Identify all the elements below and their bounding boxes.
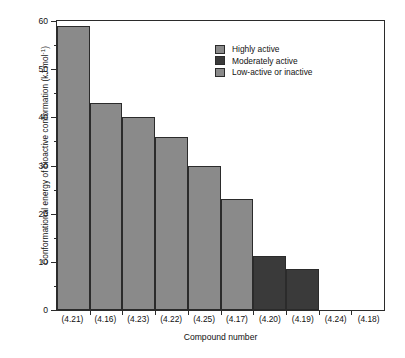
legend: Highly activeModerately activeLow-active…	[215, 44, 313, 77]
x-axis-tick-label: (4.21)	[56, 314, 89, 324]
y-axis-tick-label: 30	[38, 161, 48, 171]
bar[interactable]	[188, 166, 221, 311]
x-axis-tick-label: (4.23)	[122, 314, 155, 324]
x-axis-tick-label: (4.25)	[188, 314, 221, 324]
legend-swatch	[215, 45, 225, 54]
bar[interactable]	[122, 117, 155, 310]
bar-slot	[122, 21, 155, 310]
y-axis-title-superscript: -1	[40, 49, 46, 55]
bar-slot	[351, 21, 384, 310]
x-axis-tick-label: (4.20)	[253, 314, 286, 324]
bar-slot	[90, 21, 123, 310]
bar[interactable]	[253, 256, 286, 310]
legend-label: Low-active or inactive	[232, 67, 313, 77]
x-axis-tick-label: (4.19)	[286, 314, 319, 324]
bar[interactable]	[57, 26, 90, 310]
legend-swatch	[215, 56, 225, 65]
x-axis-tick-label: (4.16)	[89, 314, 122, 324]
bar[interactable]	[221, 199, 254, 310]
legend-label: Highly active	[232, 44, 279, 54]
legend-item[interactable]: Highly active	[215, 44, 313, 54]
legend-swatch	[215, 68, 225, 77]
y-axis-tick-label: 60	[38, 16, 48, 26]
legend-item[interactable]: Low-active or inactive	[215, 67, 313, 77]
bar[interactable]	[155, 137, 188, 310]
bar-slot	[155, 21, 188, 310]
x-axis-title: Compound number	[56, 332, 385, 342]
x-axis-tick-labels: (4.21)(4.16)(4.23)(4.22)(4.25)(4.17)(4.2…	[56, 314, 385, 324]
y-axis-tick-label: 40	[38, 112, 48, 122]
bar-slot	[319, 21, 352, 310]
y-axis-tick-label: 50	[38, 64, 48, 74]
y-axis-tick-label: 20	[38, 209, 48, 219]
y-axis-title-tail: )	[41, 46, 50, 49]
bar-chart-figure: Conformational energy of bioactive confo…	[0, 0, 405, 358]
bar[interactable]	[286, 269, 319, 310]
bar-slot	[57, 21, 90, 310]
x-axis-tick-label: (4.24)	[319, 314, 352, 324]
x-axis-tick-label: (4.18)	[352, 314, 385, 324]
bar[interactable]	[90, 103, 123, 310]
y-axis-tick-label: 10	[38, 257, 48, 267]
legend-label: Moderately active	[232, 56, 298, 66]
x-axis-tick-label: (4.22)	[155, 314, 188, 324]
legend-item[interactable]: Moderately active	[215, 56, 313, 66]
y-axis-tick-label: 0	[43, 305, 48, 315]
y-axis-tick-mark	[51, 310, 57, 311]
x-axis-tick-label: (4.17)	[221, 314, 254, 324]
